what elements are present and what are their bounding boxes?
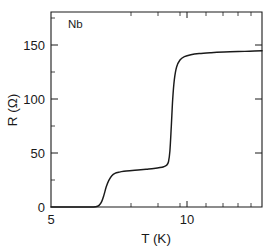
y-tick-label-100: 100 (23, 92, 45, 107)
y-tick-label-0: 0 (38, 200, 45, 215)
x-axis-top-ticks (131, 12, 251, 18)
y-tick-label-150: 150 (23, 38, 45, 53)
y-axis-major-ticks (51, 45, 58, 153)
sample-label-nb: Nb (68, 18, 83, 30)
x-axis-title: T (K) (141, 231, 171, 246)
plot-frame (51, 12, 262, 207)
x-tick-label-10: 10 (180, 212, 194, 227)
x-tick-label-5: 5 (47, 212, 54, 227)
x-axis-bottom-ticks (131, 201, 251, 207)
right-axis-ticks (255, 45, 262, 153)
figure-container: 0 50 100 150 5 10 T (K) R (Ω) Nb (0, 0, 271, 249)
resistance-curve (51, 51, 262, 207)
resistance-vs-temperature-chart: 0 50 100 150 5 10 T (K) R (Ω) Nb (0, 0, 271, 249)
y-tick-label-50: 50 (31, 146, 45, 161)
y-axis-title: R (Ω) (5, 94, 20, 127)
